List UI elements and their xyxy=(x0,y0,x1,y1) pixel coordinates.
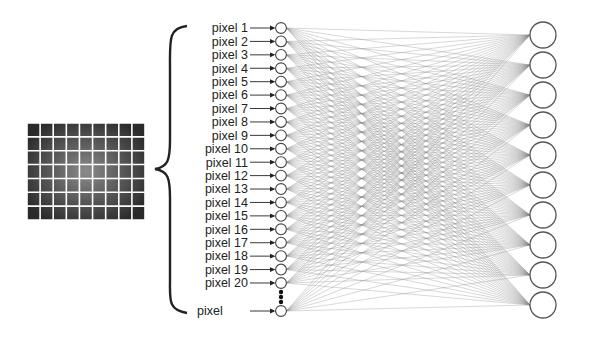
input-label: pixel 6 xyxy=(212,88,248,102)
arrow-head-icon xyxy=(270,227,276,232)
input-label: pixel 8 xyxy=(212,115,248,129)
output-neuron xyxy=(530,172,556,198)
input-label: pixel 12 xyxy=(205,169,248,183)
output-neuron xyxy=(530,292,556,318)
arrow-head-icon xyxy=(270,240,276,245)
output-neuron xyxy=(530,232,556,258)
arrow-head-icon xyxy=(270,160,276,165)
arrow-head-icon xyxy=(270,213,276,218)
input-neuron xyxy=(276,130,287,141)
output-layer xyxy=(530,22,556,318)
arrow-head-icon xyxy=(270,133,276,138)
arrow-head-icon xyxy=(270,187,276,192)
input-label: pixel 5 xyxy=(212,75,248,89)
input-label: pixel 19 xyxy=(205,263,248,277)
ellipsis-dots xyxy=(279,290,283,304)
input-label: pixel 15 xyxy=(205,209,248,223)
output-neuron xyxy=(530,52,556,78)
arrow-head-icon xyxy=(270,200,276,205)
input-neuron xyxy=(276,237,287,248)
arrow-head-icon xyxy=(270,281,276,286)
input-neuron xyxy=(276,90,287,101)
input-neuron xyxy=(276,306,287,317)
pixel-grid-image xyxy=(27,123,145,220)
input-label: pixel 10 xyxy=(205,142,248,156)
neural-network-diagram: pixel 1pixel 2pixel 3pixel 4pixel 5pixel… xyxy=(0,0,589,338)
arrow-head-icon xyxy=(270,39,276,44)
arrow-head-icon xyxy=(270,120,276,125)
output-neuron xyxy=(530,142,556,168)
input-label: pixel 7 xyxy=(212,102,248,116)
input-neuron xyxy=(276,117,287,128)
input-neuron xyxy=(276,49,287,60)
input-neuron xyxy=(276,103,287,114)
output-neuron xyxy=(530,112,556,138)
curly-brace xyxy=(155,26,187,313)
input-label: pixel 9 xyxy=(212,129,248,143)
input-neuron xyxy=(276,197,287,208)
arrow-head-icon xyxy=(270,26,276,31)
input-label: pixel 16 xyxy=(205,223,248,237)
arrow-head-icon xyxy=(270,106,276,111)
input-label: pixel 3 xyxy=(212,48,248,62)
input-label: pixel 14 xyxy=(205,196,248,210)
arrow-head-icon xyxy=(270,146,276,151)
input-labels: pixel 1pixel 2pixel 3pixel 4pixel 5pixel… xyxy=(197,21,276,318)
input-label: pixel 17 xyxy=(205,236,248,250)
output-neuron xyxy=(530,262,556,288)
input-neuron xyxy=(276,76,287,87)
input-label: pixel 2 xyxy=(212,35,248,49)
input-neuron xyxy=(276,23,287,34)
input-neuron xyxy=(276,36,287,47)
input-label: pixel 13 xyxy=(205,182,248,196)
arrow-head-icon xyxy=(270,254,276,259)
input-neuron xyxy=(276,278,287,289)
input-label: pixel 4 xyxy=(212,62,248,76)
input-label: pixel 1 xyxy=(212,21,248,35)
output-neuron xyxy=(530,82,556,108)
output-neuron xyxy=(530,22,556,48)
arrow-head-icon xyxy=(270,52,276,57)
input-neuron xyxy=(276,170,287,181)
input-neuron xyxy=(276,251,287,262)
input-layer xyxy=(276,23,287,317)
input-label: pixel 11 xyxy=(206,156,248,170)
connection-lines xyxy=(286,28,530,311)
input-neuron xyxy=(276,143,287,154)
input-neuron xyxy=(276,157,287,168)
input-neuron xyxy=(276,264,287,275)
arrow-head-icon xyxy=(270,66,276,71)
arrow-head-icon xyxy=(270,267,276,272)
input-neuron xyxy=(276,224,287,235)
input-neuron xyxy=(276,210,287,221)
input-label: pixel xyxy=(197,304,223,318)
output-neuron xyxy=(530,202,556,228)
input-neuron xyxy=(276,63,287,74)
arrow-head-icon xyxy=(270,309,276,314)
input-label: pixel 20 xyxy=(205,276,248,290)
arrow-head-icon xyxy=(270,173,276,178)
arrow-head-icon xyxy=(270,93,276,98)
input-label: pixel 18 xyxy=(205,249,248,263)
input-neuron xyxy=(276,184,287,195)
arrow-head-icon xyxy=(270,79,276,84)
